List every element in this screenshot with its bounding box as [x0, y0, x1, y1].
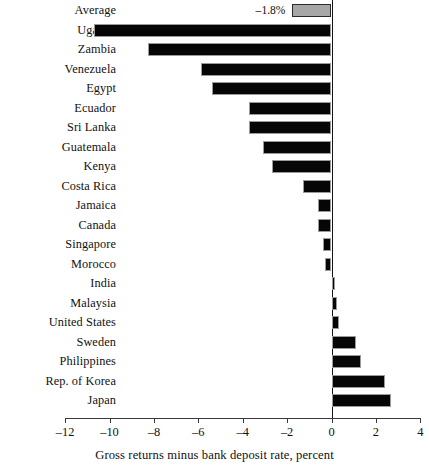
category-label: Sweden — [0, 333, 116, 353]
chart-row: Canada — [0, 216, 429, 236]
bar — [292, 4, 332, 17]
chart-row: Costa Rica — [0, 177, 429, 197]
category-label: India — [0, 274, 116, 294]
x-axis-tick — [198, 418, 199, 423]
chart-row: Malaysia — [0, 294, 429, 314]
bar — [332, 394, 392, 407]
bar — [94, 24, 332, 37]
category-label: Zambia — [0, 40, 116, 60]
category-label: Average — [0, 1, 116, 21]
x-axis-tick — [110, 418, 111, 423]
bar — [263, 141, 332, 154]
category-label: Venezuela — [0, 60, 116, 80]
chart-row: Egypt — [0, 79, 429, 99]
chart-row: Singapore — [0, 235, 429, 255]
category-label: United States — [0, 313, 116, 333]
chart-row: India — [0, 274, 429, 294]
bar — [212, 82, 332, 95]
bar — [249, 121, 331, 134]
chart-row: Sweden — [0, 333, 429, 353]
category-label: Kenya — [0, 157, 116, 177]
category-label: Costa Rica — [0, 177, 116, 197]
bar — [272, 160, 332, 173]
chart-row: Morocco — [0, 255, 429, 275]
category-label: Rep. of Korea — [0, 372, 116, 392]
bar-value-label: –1.8% — [232, 1, 286, 21]
bar — [332, 355, 362, 368]
x-axis-tick — [332, 418, 333, 423]
x-axis-tick — [65, 418, 66, 423]
x-axis-tick-label: –6 — [178, 425, 218, 440]
x-axis-tick-label: –10 — [90, 425, 130, 440]
bar — [303, 180, 332, 193]
bar — [332, 375, 385, 388]
chart-row: Uganda — [0, 21, 429, 41]
chart-row: Guatemala — [0, 138, 429, 158]
x-axis-tick — [376, 418, 377, 423]
bar — [332, 297, 338, 310]
category-label: Jamaica — [0, 196, 116, 216]
x-axis-tick-label: –4 — [223, 425, 263, 440]
category-label: Egypt — [0, 79, 116, 99]
chart-row: Ecuador — [0, 99, 429, 119]
bar — [201, 63, 332, 76]
chart-row: Sri Lanka — [0, 118, 429, 138]
x-axis-tick — [420, 418, 421, 423]
category-label: Morocco — [0, 255, 116, 275]
chart-row: Kenya — [0, 157, 429, 177]
x-axis-tick-label: 4 — [400, 425, 429, 440]
chart-row: Zambia — [0, 40, 429, 60]
bar — [325, 258, 332, 271]
x-axis-tick — [287, 418, 288, 423]
category-label: Guatemala — [0, 138, 116, 158]
plot-area: Average–1.8%UgandaZambiaVenezuelaEgyptEc… — [0, 0, 429, 418]
bar — [332, 336, 356, 349]
x-axis-tick-label: –2 — [267, 425, 307, 440]
x-axis-tick-label: 0 — [312, 425, 352, 440]
bar — [323, 238, 332, 251]
category-label: Canada — [0, 216, 116, 236]
bar — [318, 219, 331, 232]
chart-row: Japan — [0, 391, 429, 411]
bar-chart: Average–1.8%UgandaZambiaVenezuelaEgyptEc… — [0, 0, 429, 475]
category-label: Philippines — [0, 352, 116, 372]
x-axis-tick — [243, 418, 244, 423]
x-axis-tick-label: 2 — [356, 425, 396, 440]
x-axis-tick-label: –12 — [45, 425, 85, 440]
x-axis-tick-label: –8 — [134, 425, 174, 440]
chart-row: Venezuela — [0, 60, 429, 80]
chart-row: Jamaica — [0, 196, 429, 216]
bar — [332, 316, 340, 329]
x-axis-tick — [154, 418, 155, 423]
x-axis-title: Gross returns minus bank deposit rate, p… — [0, 448, 429, 463]
chart-row: Philippines — [0, 352, 429, 372]
chart-row: United States — [0, 313, 429, 333]
category-label: Singapore — [0, 235, 116, 255]
category-label: Sri Lanka — [0, 118, 116, 138]
category-label: Ecuador — [0, 99, 116, 119]
bar — [249, 102, 331, 115]
chart-row: Rep. of Korea — [0, 372, 429, 392]
category-label: Japan — [0, 391, 116, 411]
chart-row: Average–1.8% — [0, 1, 429, 21]
bar — [318, 199, 331, 212]
bar — [148, 43, 331, 56]
category-label: Malaysia — [0, 294, 116, 314]
bar — [332, 277, 335, 290]
